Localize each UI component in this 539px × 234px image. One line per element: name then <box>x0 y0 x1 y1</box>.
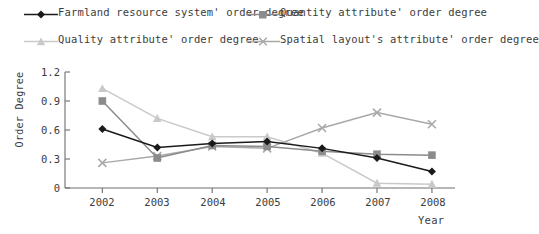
series-triangle <box>98 84 436 188</box>
y-tick-marks <box>65 72 70 188</box>
data-series-group <box>98 84 436 188</box>
x-tick-marks <box>102 188 432 193</box>
series-square <box>99 97 436 162</box>
axes <box>65 72 455 188</box>
